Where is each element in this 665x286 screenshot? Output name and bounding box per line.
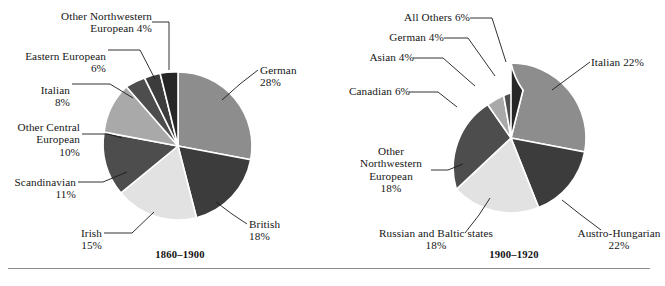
label-other-northwestern-european: Other Northwestern European 4% [4,10,152,35]
label-other-northwestern-european-right: Other Northwestern European 18% [349,145,433,195]
label-scandinavian: Scandinavian 11% [2,176,76,201]
label-all-others: All Others 6% [330,11,470,23]
caption-1900-1920: 1900–1920 [449,249,579,260]
label-german-right: German 4% [330,31,444,43]
label-austro-hungarian: Austro-Hungarian 22% [567,227,665,252]
label-german: German 28% [260,64,324,89]
label-irish: Irish 15% [58,227,102,252]
bottom-divider-rule [8,268,650,269]
chart-panel-1860-1900: Other Northwestern European 4% Eastern E… [0,0,329,286]
label-asian: Asian 4% [330,51,414,63]
label-italian: Italian 8% [4,84,70,109]
label-italian-right: Italian 22% [591,56,665,68]
label-eastern-european: Eastern European 6% [4,50,106,75]
label-british: British 18% [249,218,315,243]
caption-1860-1900: 1860–1900 [115,249,245,260]
chart-panel-1900-1920: All Others 6% German 4% Asian 4% Canadia… [329,0,658,286]
label-canadian: Canadian 6% [330,85,410,97]
label-other-central-european: Other Central European 10% [2,121,80,158]
